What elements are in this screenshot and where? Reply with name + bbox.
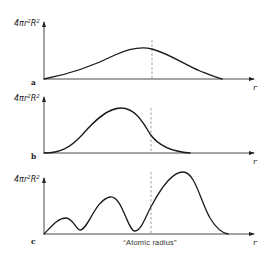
atomic-radius-label: “Atomic radius”	[123, 238, 177, 247]
panel-label-a: a	[31, 78, 36, 87]
y-axis-label-b: 4πr2R2	[14, 93, 40, 103]
x-axis-label-a: r	[253, 83, 258, 92]
curve-a	[44, 48, 222, 79]
y-axis-label-c: 4πr2R2	[14, 174, 40, 184]
curve-c	[44, 172, 228, 234]
x-axis-label-b: r	[253, 157, 258, 166]
panel-c: 4πr2R2 r c “Atomic radius”	[14, 172, 258, 247]
curve-b	[44, 108, 190, 153]
panel-b: 4πr2R2 r b	[14, 93, 258, 166]
panel-a: 4πr2R2 r a	[14, 18, 258, 92]
x-axis-label-c: r	[253, 238, 258, 247]
y-axis-label-a: 4πr2R2	[14, 18, 40, 28]
panel-label-c: c	[31, 237, 36, 246]
radial-distribution-figure: 4πr2R2 r a 4πr2R2 r b 4πr2R2 r c “Atomic…	[0, 0, 266, 261]
panel-label-b: b	[31, 152, 36, 161]
